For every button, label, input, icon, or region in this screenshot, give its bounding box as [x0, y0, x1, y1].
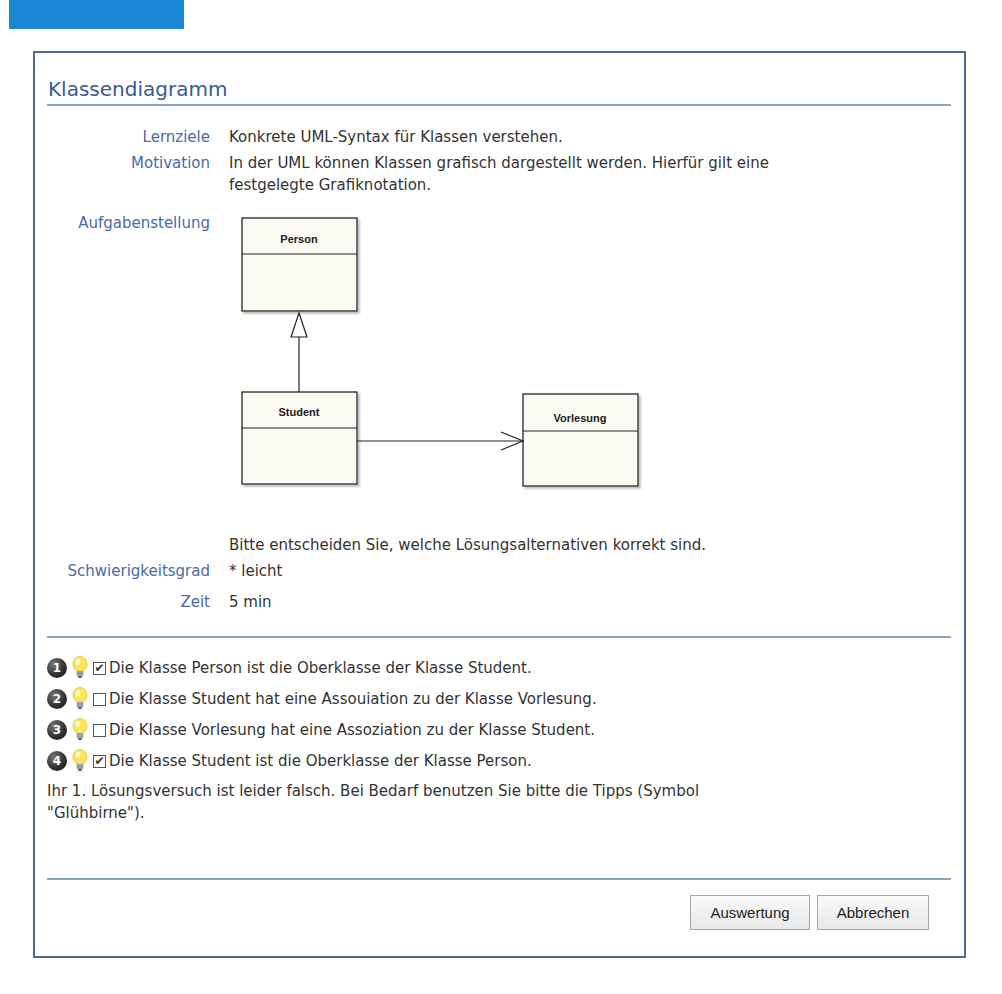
answer-option-1: 1 ✔ Die Klasse Person ist die Oberklasse… — [47, 655, 532, 681]
title-divider — [47, 104, 951, 106]
aufgabenstellung-label: Aufgabenstellung — [35, 214, 210, 232]
motivation-value-line1: In der UML können Klassen grafisch darge… — [229, 152, 769, 174]
number-badge-icon: 4 — [47, 751, 67, 771]
cancel-button[interactable]: Abbrechen — [817, 895, 929, 930]
option-checkbox[interactable]: ✔ — [93, 755, 106, 768]
option-text: Die Klasse Student hat eine Assouiation … — [109, 690, 597, 708]
option-checkbox[interactable] — [93, 724, 106, 737]
option-text: Die Klasse Vorlesung hat eine Assoziatio… — [109, 721, 595, 739]
exercise-dialog: Klassendiagramm Lernziele Konkrete UML-S… — [33, 51, 966, 958]
answer-option-2: 2 Die Klasse Student hat eine Assouiatio… — [47, 686, 597, 712]
feedback-message: Ihr 1. Lösungsversuch ist leider falsch.… — [47, 780, 907, 824]
class-vorlesung: Vorlesung — [523, 394, 638, 486]
generalization-arrow — [291, 313, 307, 392]
lernziele-value: Konkrete UML-Syntax für Klassen verstehe… — [229, 126, 563, 148]
svg-text:Vorlesung: Vorlesung — [554, 412, 607, 424]
info-divider — [47, 636, 951, 638]
lightbulb-hint-icon[interactable] — [71, 718, 89, 742]
zeit-value: 5 min — [229, 591, 272, 613]
header-accent-bar — [9, 0, 184, 29]
task-instruction: Bitte entscheiden Sie, welche Lösungsalt… — [229, 534, 706, 556]
association-arrow — [357, 432, 523, 450]
lightbulb-hint-icon[interactable] — [71, 656, 89, 680]
number-badge-icon: 1 — [47, 658, 67, 678]
option-checkbox[interactable] — [93, 693, 106, 706]
svg-text:Student: Student — [279, 406, 320, 418]
option-text: Die Klasse Student ist die Oberklasse de… — [109, 752, 532, 770]
lightbulb-hint-icon[interactable] — [71, 749, 89, 773]
feedback-line-1: Ihr 1. Lösungsversuch ist leider falsch.… — [47, 780, 907, 802]
schwierigkeitsgrad-value: * leicht — [229, 560, 282, 582]
option-checkbox[interactable]: ✔ — [93, 662, 106, 675]
answer-option-4: 4 ✔ Die Klasse Student ist die Oberklass… — [47, 748, 532, 774]
motivation-value-line2: festgelegte Grafiknotation. — [229, 174, 431, 196]
dialog-title: Klassendiagramm — [48, 77, 227, 101]
uml-class-diagram: Person Student Vorlesung — [229, 213, 649, 503]
number-badge-icon: 3 — [47, 720, 67, 740]
motivation-label: Motivation — [35, 154, 210, 172]
answer-option-3: 3 Die Klasse Vorlesung hat eine Assoziat… — [47, 717, 595, 743]
svg-text:Person: Person — [280, 233, 318, 245]
feedback-line-2: "Glühbirne"). — [47, 802, 907, 824]
zeit-label: Zeit — [35, 593, 210, 611]
lightbulb-hint-icon[interactable] — [71, 687, 89, 711]
number-badge-icon: 2 — [47, 689, 67, 709]
lernziele-label: Lernziele — [35, 128, 210, 146]
evaluate-button[interactable]: Auswertung — [690, 895, 810, 930]
schwierigkeitsgrad-label: Schwierigkeitsgrad — [35, 562, 210, 580]
class-student: Student — [242, 392, 357, 484]
class-person: Person — [242, 218, 357, 311]
option-text: Die Klasse Person ist die Oberklasse der… — [109, 659, 532, 677]
footer-divider — [47, 878, 951, 880]
